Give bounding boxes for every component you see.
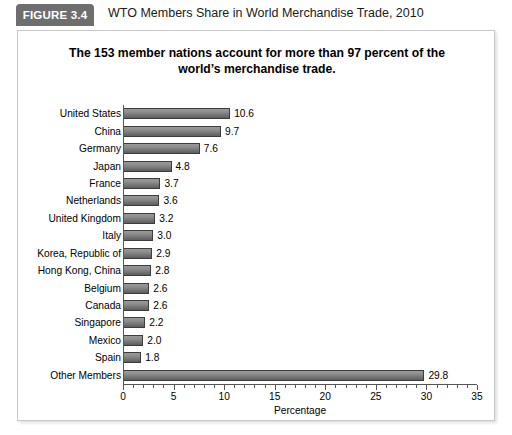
- category-label: Mexico: [89, 335, 121, 346]
- x-axis-minor-tick: [214, 385, 215, 388]
- bar-value-label: 1.8: [145, 352, 159, 363]
- category-label: Germany: [79, 143, 121, 154]
- x-axis-minor-tick: [265, 385, 266, 388]
- x-axis-major-tick: [123, 385, 124, 390]
- x-axis-tick-label: 10: [218, 391, 229, 403]
- bar-value-label: 2.6: [153, 283, 167, 294]
- bar: [123, 195, 159, 206]
- x-axis-tick-label: 25: [370, 391, 381, 403]
- x-axis-minor-tick: [143, 385, 144, 388]
- bar: [123, 108, 230, 119]
- x-axis-minor-tick: [406, 385, 407, 388]
- x-axis-minor-tick: [194, 385, 195, 388]
- x-axis-minor-tick: [366, 385, 367, 388]
- category-label: Korea, Republic of: [37, 248, 121, 259]
- x-axis-tick-label: 20: [320, 391, 331, 403]
- bar: [123, 178, 160, 189]
- x-axis-minor-tick: [346, 385, 347, 388]
- x-axis-minor-tick: [396, 385, 397, 388]
- category-label: China: [94, 126, 121, 137]
- bar: [123, 317, 145, 328]
- bar-value-label: 2.8: [155, 265, 169, 276]
- x-axis-minor-tick: [285, 385, 286, 388]
- bar: [123, 213, 155, 224]
- bars-layer: 10.69.77.64.83.73.63.23.02.92.82.62.62.2…: [123, 31, 496, 422]
- category-label: Italy: [102, 230, 121, 241]
- category-label: Spain: [95, 352, 121, 363]
- category-label: Netherlands: [66, 195, 121, 206]
- figure-number-badge: FIGURE 3.4: [16, 4, 94, 26]
- category-label: Other Members: [50, 370, 121, 381]
- x-axis-tick-label: 15: [269, 391, 280, 403]
- x-axis-tick-label: 5: [171, 391, 177, 403]
- bar: [123, 265, 151, 276]
- x-axis-major-tick: [224, 385, 225, 390]
- category-label: United States: [60, 108, 121, 119]
- x-axis-tick-label: 30: [421, 391, 432, 403]
- x-axis-minor-tick: [234, 385, 235, 388]
- x-axis-minor-tick: [356, 385, 357, 388]
- x-axis-minor-tick: [295, 385, 296, 388]
- x-axis-minor-tick: [457, 385, 458, 388]
- x-axis-minor-tick: [184, 385, 185, 388]
- x-axis-minor-tick: [447, 385, 448, 388]
- x-axis-tick-label: 0: [120, 391, 126, 403]
- bar: [123, 230, 153, 241]
- x-axis-minor-tick: [315, 385, 316, 388]
- x-axis-minor-tick: [244, 385, 245, 388]
- x-axis-minor-tick: [153, 385, 154, 388]
- bar-value-label: 4.8: [176, 161, 190, 172]
- figure-body: The 153 member nations account for more …: [17, 30, 495, 421]
- bar: [123, 300, 149, 311]
- x-axis-line: [123, 384, 477, 385]
- x-axis-minor-tick: [335, 385, 336, 388]
- bar-value-label: 2.0: [147, 335, 161, 346]
- x-axis-minor-tick: [437, 385, 438, 388]
- x-axis-major-tick: [477, 385, 478, 390]
- bar: [123, 352, 141, 363]
- x-axis-major-tick: [275, 385, 276, 390]
- x-axis-major-tick: [174, 385, 175, 390]
- bar: [123, 283, 149, 294]
- bar-value-label: 9.7: [225, 126, 239, 137]
- x-axis-minor-tick: [254, 385, 255, 388]
- bar-value-label: 7.6: [204, 143, 218, 154]
- x-axis-major-tick: [376, 385, 377, 390]
- figure-title: WTO Members Share in World Merchandise T…: [108, 6, 424, 20]
- bar-value-label: 3.7: [164, 178, 178, 189]
- category-label: Canada: [85, 300, 121, 311]
- bar: [123, 248, 152, 259]
- bar: [123, 335, 143, 346]
- category-label: Singapore: [75, 317, 121, 328]
- bar-value-label: 10.6: [234, 108, 254, 119]
- bar-value-label: 2.6: [153, 300, 167, 311]
- x-axis-major-tick: [426, 385, 427, 390]
- bar-value-label: 2.9: [156, 248, 170, 259]
- x-axis-minor-tick: [204, 385, 205, 388]
- bar: [123, 370, 424, 381]
- x-axis-minor-tick: [163, 385, 164, 388]
- x-axis-minor-tick: [133, 385, 134, 388]
- bar-value-label: 3.6: [163, 195, 177, 206]
- category-label: Japan: [93, 161, 121, 172]
- bar-value-label: 29.8: [428, 370, 448, 381]
- bar-value-label: 2.2: [149, 317, 163, 328]
- bar-chart: United StatesChinaGermanyJapanFranceNeth…: [18, 31, 496, 422]
- category-label: United Kingdom: [49, 213, 122, 224]
- x-axis-major-tick: [325, 385, 326, 390]
- bar-value-label: 3.2: [159, 213, 173, 224]
- category-label: Hong Kong, China: [38, 265, 121, 276]
- bar: [123, 161, 172, 172]
- x-axis-title: Percentage: [123, 405, 477, 416]
- category-axis-labels: United StatesChinaGermanyJapanFranceNeth…: [18, 31, 121, 422]
- x-axis-minor-tick: [416, 385, 417, 388]
- category-label: Belgium: [84, 283, 121, 294]
- x-axis-minor-tick: [305, 385, 306, 388]
- bar: [123, 143, 200, 154]
- y-axis-line: [123, 105, 124, 385]
- x-axis-minor-tick: [386, 385, 387, 388]
- x-axis-minor-tick: [467, 385, 468, 388]
- bar: [123, 126, 221, 137]
- category-label: France: [89, 178, 121, 189]
- bar-value-label: 3.0: [157, 230, 171, 241]
